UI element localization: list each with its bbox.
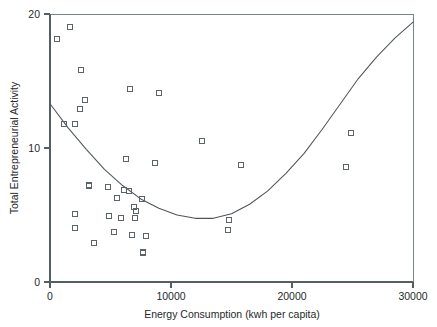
data-point-marker (141, 250, 146, 255)
data-point-marker (225, 227, 230, 232)
data-point-marker (152, 160, 157, 165)
data-point-marker (128, 87, 133, 92)
data-point-marker (227, 218, 232, 223)
data-point-marker (156, 91, 161, 96)
chart-canvas: 20 10 0 0 10000 20000 30000 Energy Consu… (0, 0, 437, 327)
data-point-marker (114, 195, 119, 200)
y-tick-labels: 20 10 0 (28, 8, 40, 288)
y-axis-ticks (44, 14, 50, 282)
data-point-marker (87, 183, 92, 188)
data-point-marker (344, 164, 349, 169)
data-point-marker (199, 139, 204, 144)
data-point-marker (55, 37, 60, 42)
x-axis-title: Energy Consumption (kwh per capita) (144, 308, 320, 320)
data-point-marker (239, 163, 244, 168)
data-point-marker (349, 131, 354, 136)
data-point-marker (83, 97, 88, 102)
data-point-marker (130, 233, 135, 238)
data-point-marker (91, 241, 96, 246)
data-point-marker (106, 184, 111, 189)
data-point-marker (72, 211, 77, 216)
data-point-marker (143, 234, 148, 239)
y-tick-label-10: 10 (28, 142, 40, 154)
data-point-marker (73, 226, 78, 231)
data-point-marker (132, 215, 137, 220)
x-tick-label-30000: 30000 (398, 290, 427, 302)
data-point-marker (123, 156, 128, 161)
plot-frame (50, 14, 413, 282)
x-tick-label-20000: 20000 (277, 290, 306, 302)
data-point-marker (112, 230, 117, 235)
x-tick-labels: 0 10000 20000 30000 (47, 290, 428, 302)
y-tick-label-0: 0 (34, 276, 40, 288)
y-tick-label-20: 20 (28, 8, 40, 20)
data-point-marker (78, 68, 83, 73)
x-axis-ticks (50, 282, 413, 288)
data-point-group (55, 25, 354, 255)
quadratic-fit-curve (50, 22, 413, 218)
scatter-chart: 20 10 0 0 10000 20000 30000 Energy Consu… (0, 0, 437, 327)
x-tick-label-10000: 10000 (156, 290, 185, 302)
data-point-marker (67, 25, 72, 30)
x-tick-label-0: 0 (47, 290, 53, 302)
data-point-marker (107, 214, 112, 219)
y-axis-title: Total Entrepreneurial Activity (8, 81, 20, 214)
data-point-marker (73, 121, 78, 126)
data-point-marker (77, 107, 82, 112)
data-point-marker (119, 215, 124, 220)
